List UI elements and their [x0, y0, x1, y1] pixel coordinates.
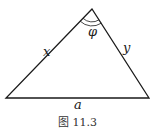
- triangle-diagram: φ x y a 图 11.3: [0, 0, 161, 132]
- label-x: x: [43, 44, 51, 59]
- angle-arc-inner: [83, 18, 99, 22]
- label-y: y: [122, 40, 131, 55]
- label-a: a: [74, 97, 82, 112]
- figure-caption: 图 11.3: [58, 116, 97, 129]
- label-phi: φ: [88, 24, 98, 39]
